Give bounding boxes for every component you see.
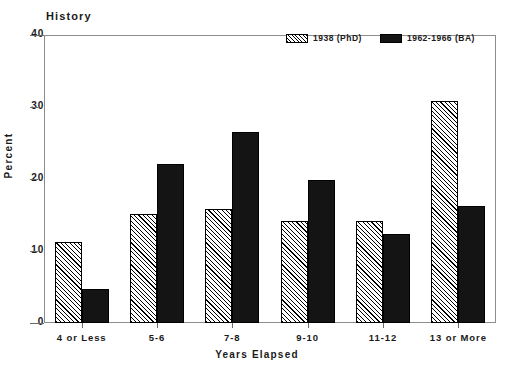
y-tick-label: 30 [18,100,44,111]
chart-legend: 1938 (PhD) 1962-1966 (BA) [286,33,475,43]
x-tick-mark [82,323,83,328]
x-tick-mark [232,323,233,328]
legend-swatch-solid-icon [380,34,402,43]
x-tick-label: 5-6 [149,332,165,343]
bar-phd[interactable] [281,221,308,323]
bar-phd[interactable] [55,242,82,323]
y-tick-mark [30,323,44,324]
legend-swatch-hatched-icon [286,34,308,43]
bar-group [205,35,259,323]
y-tick-mark [30,35,44,36]
bar-phd[interactable] [431,101,458,323]
x-tick-label: 4 or Less [57,332,107,343]
y-tick-label: 10 [18,244,44,255]
bar-phd[interactable] [205,209,232,323]
legend-label-phd: 1938 (PhD) [313,33,362,43]
legend-label-ba: 1962-1966 (BA) [407,33,475,43]
bars-layer [44,35,496,323]
bar-group [55,35,109,323]
bar-phd[interactable] [130,214,157,323]
bar-group [431,35,485,323]
bar-ba[interactable] [157,164,184,323]
y-tick-label: 0 [18,316,44,327]
y-tick-mark [30,107,38,108]
bar-ba[interactable] [232,132,259,323]
x-axis-title: Years Elapsed [0,349,514,360]
x-tick-label: 9-10 [296,332,319,343]
x-tick-label: 11-12 [369,332,397,343]
legend-entry-ba[interactable]: 1962-1966 (BA) [380,33,475,43]
bar-ba[interactable] [82,289,109,323]
y-axis-title: Percent [3,133,14,179]
x-tick-label: 7-8 [224,332,240,343]
bar-phd[interactable] [356,221,383,323]
bar-ba[interactable] [383,234,410,323]
bar-ba[interactable] [458,206,485,323]
legend-entry-phd[interactable]: 1938 (PhD) [286,33,362,43]
bar-group [130,35,184,323]
bar-group [281,35,335,323]
x-tick-label: 13 or More [430,332,487,343]
x-tick-mark [308,323,309,328]
x-tick-mark [458,323,459,328]
bar-ba[interactable] [308,180,335,323]
x-tick-mark [157,323,158,328]
x-tick-mark [383,323,384,328]
chart-title: History [46,10,92,22]
y-tick-mark [30,179,38,180]
y-tick-label: 20 [18,172,44,183]
y-tick-label: 40 [18,28,44,39]
bar-group [356,35,410,323]
chart-canvas: History Percent 010203040 4 or Less5-67-… [0,0,514,379]
y-tick-mark [30,251,38,252]
